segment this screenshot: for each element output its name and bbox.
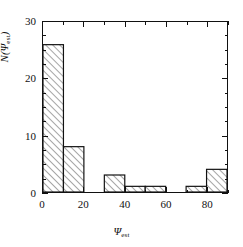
y-tick-minor <box>42 150 46 151</box>
y-tick-minor-right <box>225 150 229 151</box>
y-tick-major-right <box>222 21 228 22</box>
x-tick-minor-top <box>63 21 64 25</box>
y-tick-minor-right <box>225 164 229 165</box>
histogram-figure: 020406080 0102030 Ψest N(Ψest) <box>0 0 243 247</box>
y-tick-minor-right <box>225 107 229 108</box>
y-tick-minor-right <box>225 50 229 51</box>
y-tick-minor <box>42 35 46 36</box>
x-tick-label: 80 <box>202 199 213 210</box>
y-tick-label: 30 <box>8 16 36 27</box>
y-tick-minor <box>42 93 46 94</box>
x-tick-major <box>207 187 208 193</box>
histogram-bar <box>63 147 83 192</box>
y-tick-minor <box>42 164 46 165</box>
y-tick-minor-right <box>225 121 229 122</box>
y-tick-minor-right <box>225 35 229 36</box>
y-tick-label: 10 <box>8 130 36 141</box>
y-axis-title-prefix: N( <box>0 51 10 62</box>
x-tick-minor <box>187 190 188 194</box>
x-tick-minor-top <box>228 21 229 25</box>
y-tick-minor <box>42 50 46 51</box>
y-tick-major <box>42 78 48 79</box>
histogram-bar <box>145 186 165 192</box>
histogram-bar <box>43 45 63 192</box>
x-tick-major <box>83 187 84 193</box>
y-tick-major <box>42 21 48 22</box>
bars-group <box>43 45 227 192</box>
y-tick-minor-right <box>225 93 229 94</box>
x-tick-minor-top <box>145 21 146 25</box>
y-tick-major-right <box>222 193 228 194</box>
x-tick-minor <box>104 190 105 194</box>
x-tick-label: 20 <box>78 199 89 210</box>
y-tick-minor <box>42 64 46 65</box>
x-tick-major-top <box>125 21 126 27</box>
y-tick-major <box>42 136 48 137</box>
y-tick-major-right <box>222 136 228 137</box>
histogram-bar <box>207 169 227 192</box>
x-tick-major <box>166 187 167 193</box>
y-axis-title-symbol: Ψ <box>0 44 10 52</box>
histogram-bars <box>43 22 227 192</box>
histogram-bar <box>186 186 206 192</box>
x-tick-minor-top <box>187 21 188 25</box>
x-tick-minor-top <box>104 21 105 25</box>
x-tick-major-top <box>83 21 84 27</box>
y-axis-title-subscript: est <box>4 35 12 43</box>
y-tick-minor <box>42 107 46 108</box>
x-tick-label: 40 <box>119 199 130 210</box>
y-tick-minor-right <box>225 64 229 65</box>
x-tick-minor <box>145 190 146 194</box>
x-tick-major-top <box>166 21 167 27</box>
y-tick-major <box>42 193 48 194</box>
y-axis-title: N(Ψest) <box>0 0 10 107</box>
x-tick-minor <box>63 190 64 194</box>
y-tick-minor <box>42 179 46 180</box>
x-tick-label: 60 <box>161 199 172 210</box>
x-axis-title-symbol: Ψ <box>113 225 121 237</box>
plot-area <box>42 21 228 193</box>
histogram-bar <box>104 175 124 192</box>
x-axis-title-subscript: est <box>121 231 129 239</box>
y-tick-minor <box>42 121 46 122</box>
x-tick-major-top <box>207 21 208 27</box>
x-tick-minor <box>228 190 229 194</box>
y-tick-major-right <box>222 78 228 79</box>
y-tick-label: 0 <box>8 188 36 199</box>
x-tick-label: 0 <box>39 199 45 210</box>
y-tick-minor-right <box>225 179 229 180</box>
x-tick-major <box>125 187 126 193</box>
x-axis-title: Ψest <box>0 225 243 237</box>
y-tick-label: 20 <box>8 73 36 84</box>
histogram-bar <box>125 186 145 192</box>
